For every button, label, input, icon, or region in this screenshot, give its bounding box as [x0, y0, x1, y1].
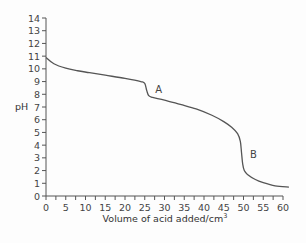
- x-tick-label: 40: [198, 202, 210, 213]
- x-tick-label: 50: [237, 202, 249, 213]
- x-axis: 051015202530354045505560: [43, 196, 289, 213]
- x-tick-label: 25: [139, 202, 151, 213]
- y-tick-label: 6: [34, 114, 40, 125]
- y-tick-label: 4: [34, 140, 40, 151]
- y-tick-label: 10: [28, 63, 40, 74]
- y-tick-label: 11: [28, 51, 40, 62]
- x-tick-label: 55: [257, 202, 269, 213]
- y-axis-title: pH: [15, 101, 28, 112]
- y-tick-label: 7: [34, 102, 40, 113]
- x-tick-label: 0: [43, 202, 49, 213]
- x-tick-label: 5: [63, 202, 69, 213]
- y-tick-label: 2: [34, 165, 40, 176]
- x-axis-title-text: Volume of acid added/cm: [103, 213, 224, 224]
- annotation-label-b: B: [250, 149, 257, 160]
- y-axis: 01234567891011121314: [28, 13, 46, 202]
- titration-chart: 01234567891011121314 0510152025303540455…: [0, 0, 306, 243]
- y-tick-label: 5: [34, 127, 40, 138]
- x-tick-label: 30: [158, 202, 170, 213]
- y-tick-label: 8: [34, 89, 40, 100]
- y-tick-label: 9: [34, 76, 40, 87]
- y-tick-label: 3: [34, 152, 40, 163]
- x-tick-label: 20: [119, 202, 131, 213]
- x-axis-title: Volume of acid added/cm3: [103, 212, 228, 224]
- y-tick-label: 0: [34, 191, 40, 202]
- x-tick-label: 35: [178, 202, 190, 213]
- y-tick-label: 12: [28, 38, 40, 49]
- y-tick-label: 14: [28, 13, 40, 24]
- x-axis-title-superscript: 3: [223, 212, 227, 220]
- x-tick-label: 60: [277, 202, 289, 213]
- x-tick-label: 15: [99, 202, 111, 213]
- x-tick-label: 10: [79, 202, 91, 213]
- annotation-label-a: A: [155, 84, 162, 95]
- chart-canvas: 01234567891011121314 0510152025303540455…: [0, 0, 306, 243]
- titration-curve-line: [46, 57, 289, 187]
- y-tick-label: 13: [28, 25, 40, 36]
- y-tick-label: 1: [34, 178, 40, 189]
